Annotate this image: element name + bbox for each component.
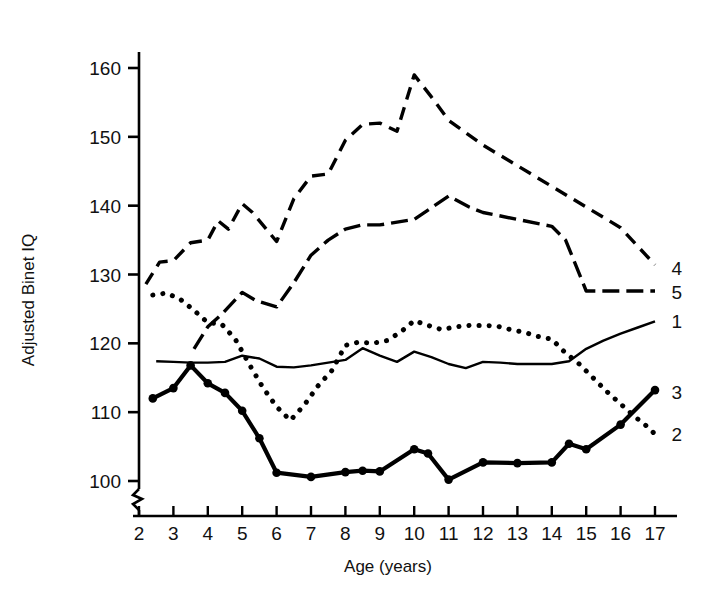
y-tick-label: 110 bbox=[91, 402, 121, 423]
series-marker-3 bbox=[341, 468, 350, 477]
series-line-1 bbox=[156, 321, 655, 368]
series-marker-3 bbox=[651, 386, 660, 395]
x-tick-label: 17 bbox=[644, 523, 665, 544]
x-tick-label: 10 bbox=[404, 523, 425, 544]
x-tick-label: 3 bbox=[168, 523, 179, 544]
x-tick-label: 6 bbox=[271, 523, 282, 544]
series-line-5 bbox=[194, 196, 655, 349]
x-tick-label: 12 bbox=[472, 523, 493, 544]
x-tick-label: 5 bbox=[237, 523, 248, 544]
series-marker-3 bbox=[186, 361, 195, 370]
x-tick-label: 8 bbox=[340, 523, 351, 544]
x-tick-label: 2 bbox=[134, 523, 145, 544]
x-tick-label: 13 bbox=[507, 523, 528, 544]
series-marker-3 bbox=[410, 445, 419, 454]
y-tick-label: 140 bbox=[89, 196, 121, 217]
series-marker-3 bbox=[616, 420, 625, 429]
y-tick-label: 150 bbox=[89, 127, 121, 148]
series-marker-3 bbox=[149, 394, 158, 403]
series-marker-3 bbox=[221, 389, 230, 398]
series-marker-3 bbox=[424, 449, 433, 458]
chart-figure: 100110120130140150160 234567891011121314… bbox=[0, 0, 704, 599]
series-marker-3 bbox=[307, 473, 316, 482]
series-marker-3 bbox=[513, 459, 522, 468]
x-tick-label: 4 bbox=[203, 523, 214, 544]
line-chart: 100110120130140150160 234567891011121314… bbox=[0, 0, 704, 599]
series-marker-3 bbox=[255, 434, 264, 443]
y-axis: 100110120130140150160 bbox=[89, 52, 142, 510]
series-label-4: 4 bbox=[672, 258, 683, 279]
x-tick-label: 16 bbox=[610, 523, 631, 544]
series-line-4 bbox=[146, 75, 655, 284]
series-marker-3 bbox=[169, 384, 178, 393]
data-series-group bbox=[146, 75, 659, 484]
x-tick-label: 11 bbox=[439, 523, 459, 544]
series-marker-3 bbox=[479, 458, 488, 467]
y-tick-label: 100 bbox=[89, 471, 121, 492]
series-labels: 45132 bbox=[672, 258, 683, 446]
series-marker-3 bbox=[376, 467, 385, 476]
x-tick-label: 14 bbox=[541, 523, 563, 544]
series-marker-3 bbox=[204, 379, 213, 388]
series-label-2: 2 bbox=[672, 424, 683, 445]
series-label-3: 3 bbox=[672, 382, 683, 403]
x-tick-label: 9 bbox=[375, 523, 386, 544]
y-tick-label: 130 bbox=[89, 265, 121, 286]
series-line-3 bbox=[153, 365, 655, 479]
x-axis: 234567891011121314151617 bbox=[133, 506, 677, 544]
x-tick-label: 15 bbox=[576, 523, 597, 544]
series-label-1: 1 bbox=[672, 311, 683, 332]
y-tick-label: 120 bbox=[89, 333, 121, 354]
x-tick-label: 7 bbox=[306, 523, 317, 544]
series-marker-3 bbox=[548, 458, 557, 467]
series-marker-3 bbox=[565, 440, 574, 449]
series-line-2 bbox=[153, 293, 655, 434]
y-tick-label: 160 bbox=[89, 58, 121, 79]
series-label-5: 5 bbox=[672, 282, 683, 303]
series-marker-3 bbox=[358, 466, 367, 475]
series-marker-3 bbox=[582, 445, 591, 454]
series-marker-3 bbox=[238, 407, 247, 416]
y-axis-title: Adjusted Binet IQ bbox=[19, 234, 38, 366]
series-marker-3 bbox=[444, 475, 453, 484]
x-axis-title: Age (years) bbox=[344, 557, 432, 576]
series-marker-3 bbox=[272, 468, 281, 477]
